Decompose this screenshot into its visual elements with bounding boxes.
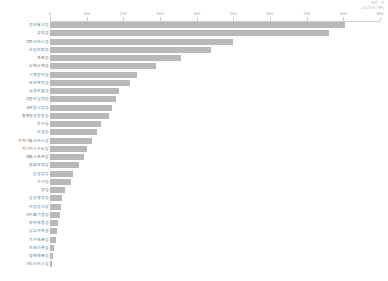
bar[interactable] xyxy=(50,113,109,119)
x-axis-tick-label: 800 xyxy=(340,11,347,16)
bar-row[interactable]: 교육업 xyxy=(0,29,388,37)
bar[interactable] xyxy=(50,55,181,61)
bar[interactable] xyxy=(50,154,84,160)
bar-row[interactable]: 제조업 xyxy=(0,54,388,62)
bar[interactable] xyxy=(50,63,156,69)
bar-row[interactable]: 화학제품업 xyxy=(0,219,388,227)
bar-category-label: 과학기술서비스업 xyxy=(18,137,49,145)
bar-category-label: 교육업 xyxy=(37,29,49,37)
bar[interactable] xyxy=(50,253,53,259)
bar[interactable] xyxy=(50,129,97,135)
bar-row[interactable]: 전문서비스업 xyxy=(0,38,388,46)
bar[interactable] xyxy=(50,195,62,201)
bar-category-label: 정보통신업 xyxy=(29,21,49,29)
bar[interactable] xyxy=(50,171,73,177)
bar[interactable] xyxy=(50,30,329,36)
x-axis-tick-label: 200 xyxy=(120,11,127,16)
bar[interactable] xyxy=(50,39,233,45)
bar[interactable] xyxy=(50,72,137,78)
bar-category-label: 광업 xyxy=(41,186,49,194)
plot-area: 0100200300400500600700800900 정보통신업교육업전문서… xyxy=(0,0,388,281)
bar[interactable] xyxy=(50,220,58,226)
bar-category-label: 공공행정업 xyxy=(29,194,49,202)
bar-category-label: 운수업 xyxy=(37,120,49,128)
bar-row[interactable]: 운수업 xyxy=(0,120,388,128)
bar-category-label: 기타서비스업 xyxy=(26,260,49,268)
bar-row[interactable]: 예술스포츠업 xyxy=(0,153,388,161)
bar-category-label: 가구제조업 xyxy=(29,236,49,244)
bar-category-label: 건설업 xyxy=(37,128,49,136)
bar-category-label: 금융보험업 xyxy=(29,87,49,95)
bar[interactable] xyxy=(50,187,65,193)
bar-category-label: 협회단체업 xyxy=(29,161,49,169)
x-axis-tick-label: 100 xyxy=(83,11,90,16)
bar-rows: 정보통신업교육업전문서비스업사업지원업제조업도매소매업기계장비업보건복지업금융보… xyxy=(0,21,388,269)
x-axis-tick-label: 300 xyxy=(157,11,164,16)
bar[interactable] xyxy=(50,146,87,152)
bar[interactable] xyxy=(50,179,71,185)
bar[interactable] xyxy=(50,245,54,251)
bar-row[interactable]: 도매소매업 xyxy=(0,62,388,70)
bar-row[interactable]: 광업 xyxy=(0,186,388,194)
bar[interactable] xyxy=(50,22,345,28)
x-axis-tick-label: 900 xyxy=(377,11,384,16)
bar-category-label: 보건복지업 xyxy=(29,79,49,87)
bar-category-label: 숙박음식점업 xyxy=(26,104,49,112)
bar-row[interactable]: 보건복지업 xyxy=(0,79,388,87)
bar[interactable] xyxy=(50,47,211,53)
bar-category-label: 화학제품업 xyxy=(29,219,49,227)
x-axis-tick-label: 500 xyxy=(230,11,237,16)
bar[interactable] xyxy=(50,237,56,243)
bar[interactable] xyxy=(50,261,52,267)
bar-row[interactable]: 전기가스수도업 xyxy=(0,145,388,153)
bar-row[interactable]: 숙박음식점업 xyxy=(0,104,388,112)
bar[interactable] xyxy=(50,212,60,218)
bar[interactable] xyxy=(50,162,79,168)
bar-row[interactable]: 기계장비업 xyxy=(0,71,388,79)
bar-row[interactable]: 수리업 xyxy=(0,178,388,186)
bar-row[interactable]: 하수폐기물업 xyxy=(0,211,388,219)
x-axis-tick-label: 700 xyxy=(303,11,310,16)
bar-category-label: 전문서비스업 xyxy=(26,38,49,46)
x-axis-tick-label: 0 xyxy=(49,11,51,16)
bar-category-label: 수리업 xyxy=(37,178,49,186)
bar[interactable] xyxy=(50,121,101,127)
bar-category-label: 예술스포츠업 xyxy=(26,153,49,161)
bar-category-label: 섬유의복업 xyxy=(29,227,49,235)
bar-category-label: 출판영상방송업 xyxy=(22,112,49,120)
bar-row[interactable]: 담배제조업 xyxy=(0,252,388,260)
bar-category-label: 기계장비업 xyxy=(29,71,49,79)
horizontal-bar-chart: 단위 : 건 (2023년 기준) 0100200300400500600700… xyxy=(0,0,388,281)
bar-row[interactable]: 농업임업 xyxy=(0,170,388,178)
bar[interactable] xyxy=(50,80,130,86)
bar-row[interactable]: 협회단체업 xyxy=(0,161,388,169)
bar-category-label: 도매소매업 xyxy=(29,62,49,70)
bar-row[interactable]: 인쇄기록업 xyxy=(0,244,388,252)
bar-category-label: 하수폐기물업 xyxy=(26,211,49,219)
bar[interactable] xyxy=(50,138,92,144)
bar-category-label: 사업지원업 xyxy=(29,46,49,54)
bar[interactable] xyxy=(50,88,119,94)
bar-row[interactable]: 정보통신업 xyxy=(0,21,388,29)
bar-row[interactable]: 건설업 xyxy=(0,128,388,136)
bar-category-label: 부동산임대업 xyxy=(26,95,49,103)
bar-category-label: 제조업 xyxy=(37,54,49,62)
bar-row[interactable]: 섬유의복업 xyxy=(0,227,388,235)
bar[interactable] xyxy=(50,204,61,210)
bar-category-label: 어업양식업 xyxy=(29,203,49,211)
bar-row[interactable]: 사업지원업 xyxy=(0,46,388,54)
bar-category-label: 인쇄기록업 xyxy=(29,244,49,252)
bar-row[interactable]: 기타서비스업 xyxy=(0,260,388,268)
bar[interactable] xyxy=(50,96,116,102)
bar[interactable] xyxy=(50,228,57,234)
x-axis-tick-label: 400 xyxy=(193,11,200,16)
bar-row[interactable]: 과학기술서비스업 xyxy=(0,137,388,145)
bar-row[interactable]: 공공행정업 xyxy=(0,194,388,202)
bar-category-label: 전기가스수도업 xyxy=(22,145,49,153)
bar-row[interactable]: 어업양식업 xyxy=(0,203,388,211)
bar-row[interactable]: 부동산임대업 xyxy=(0,95,388,103)
bar[interactable] xyxy=(50,105,112,111)
bar-row[interactable]: 출판영상방송업 xyxy=(0,112,388,120)
bar-row[interactable]: 가구제조업 xyxy=(0,236,388,244)
bar-row[interactable]: 금융보험업 xyxy=(0,87,388,95)
